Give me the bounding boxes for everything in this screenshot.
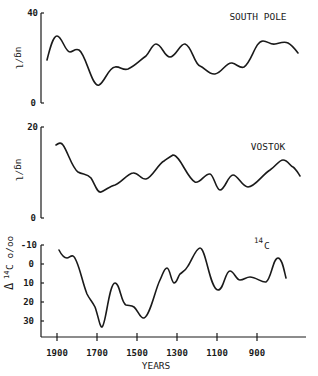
south-pole-curve bbox=[47, 36, 298, 85]
x-tick-1700: 1700 bbox=[86, 348, 108, 358]
svg-text:C o/oo: C o/oo bbox=[4, 235, 15, 270]
x-tick-1100: 1100 bbox=[206, 348, 228, 358]
c14-panel: -10 0 10 20 30 Δ 14 C o/oo 14 C bbox=[2, 235, 286, 337]
south-pole-ytick-40: 40 bbox=[27, 8, 38, 18]
c14-curve bbox=[59, 248, 286, 327]
c14-ytick-0: 0 bbox=[29, 259, 34, 269]
svg-text:Δ: Δ bbox=[2, 282, 16, 290]
south-pole-title: SOUTH POLE bbox=[229, 11, 286, 22]
south-pole-ylabel: ug/l bbox=[14, 47, 25, 70]
c14-ytick-20: 20 bbox=[23, 297, 34, 307]
c14-title-superscript: 14 bbox=[254, 236, 264, 245]
x-tick-1500: 1500 bbox=[126, 348, 148, 358]
ice-core-chart: 40 0 ug/l SOUTH POLE 20 0 ug/l VOSTOK -1… bbox=[0, 0, 318, 376]
south-pole-panel: 40 0 ug/l SOUTH POLE bbox=[14, 8, 298, 108]
vostok-ytick-20: 20 bbox=[27, 122, 38, 132]
c14-ytick-10: 10 bbox=[23, 278, 34, 288]
x-axis-label: YEARS bbox=[142, 360, 171, 371]
c14-title: C bbox=[264, 240, 270, 251]
south-pole-ytick-0: 0 bbox=[31, 98, 36, 108]
x-tick-1900: 1900 bbox=[46, 348, 68, 358]
c14-ytick-30: 30 bbox=[23, 316, 34, 326]
vostok-ytick-0: 0 bbox=[31, 213, 36, 223]
x-tick-900: 900 bbox=[249, 348, 265, 358]
c14-ylabel: Δ 14 C o/oo bbox=[2, 235, 16, 290]
vostok-title: VOSTOK bbox=[251, 141, 286, 152]
c14-ytick-minus10: -10 bbox=[21, 240, 37, 250]
x-axis: 1900 1700 1500 1300 1100 900 YEARS bbox=[41, 333, 306, 371]
vostok-ylabel: ug/l bbox=[14, 159, 25, 182]
svg-text:14: 14 bbox=[3, 271, 11, 279]
x-tick-1300: 1300 bbox=[166, 348, 188, 358]
vostok-panel: 20 0 ug/l VOSTOK bbox=[14, 122, 300, 223]
